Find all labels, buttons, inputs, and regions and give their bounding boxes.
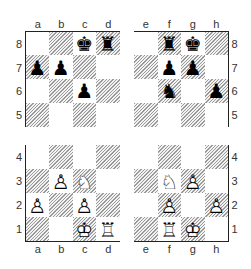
square-c7 <box>73 55 97 79</box>
board-quadrant-kingside-white: ♘ ♙ ♙ ♙ ♖ ♔ <box>134 145 229 242</box>
black-pawn-icon: ♟ <box>52 57 70 78</box>
square-h6: ♟ <box>205 79 229 103</box>
rank-label-8: 8 <box>13 38 25 50</box>
square-g4 <box>181 145 205 169</box>
square-d5 <box>96 103 120 127</box>
square-f3: ♘ <box>158 169 182 193</box>
file-labels-bottom-right: e f g h <box>134 243 228 256</box>
black-rook-icon: ♜ <box>99 33 117 54</box>
rank-label-5: 5 <box>13 109 25 121</box>
white-king-icon: ♔ <box>75 219 93 240</box>
square-c2: ♙ <box>73 193 97 217</box>
file-label-b: b <box>50 243 74 256</box>
square-g7: ♟ <box>181 55 205 79</box>
square-f5 <box>158 103 182 127</box>
black-knight-icon: ♞ <box>160 80 178 101</box>
square-b7: ♟ <box>49 55 73 79</box>
black-pawn-icon: ♟ <box>207 80 225 101</box>
square-f8: ♜ <box>158 32 182 56</box>
file-label-c: c <box>73 18 97 31</box>
rank-label-2: 2 <box>13 199 25 211</box>
file-label-g: g <box>181 243 205 256</box>
white-pawn-icon: ♙ <box>28 195 46 216</box>
square-a1 <box>26 217 50 241</box>
white-knight-icon: ♘ <box>75 171 93 192</box>
square-a7: ♟ <box>26 55 50 79</box>
file-label-f: f <box>158 18 182 31</box>
board-quadrant-queenside-white: ♙ ♘ ♙ ♙ ♔ ♖ <box>25 145 120 242</box>
rank-labels-upper-left: 8 7 6 5 <box>13 32 25 127</box>
white-knight-icon: ♘ <box>160 171 178 192</box>
square-h3 <box>205 169 229 193</box>
square-g5 <box>181 103 205 127</box>
file-label-h: h <box>205 243 229 256</box>
square-g2 <box>181 193 205 217</box>
square-b6 <box>49 79 73 103</box>
square-c4 <box>73 145 97 169</box>
file-labels-top-left: a b c d <box>26 18 120 31</box>
file-labels-top-right: e f g h <box>134 18 228 31</box>
file-label-a: a <box>26 243 50 256</box>
square-h7 <box>205 55 229 79</box>
square-g1: ♔ <box>181 217 205 241</box>
square-e5 <box>134 103 158 127</box>
rank-label-6: 6 <box>13 85 25 97</box>
square-d1: ♖ <box>96 217 120 241</box>
square-f1: ♖ <box>158 217 182 241</box>
white-king-icon: ♔ <box>184 219 202 240</box>
square-a5 <box>26 103 50 127</box>
square-d8: ♜ <box>96 32 120 56</box>
square-c3: ♘ <box>73 169 97 193</box>
square-e1 <box>134 217 158 241</box>
black-king-icon: ♚ <box>75 33 93 54</box>
black-pawn-icon: ♟ <box>75 80 93 101</box>
square-h1 <box>205 217 229 241</box>
black-pawn-icon: ♟ <box>28 57 46 78</box>
file-labels-bottom-left: a b c d <box>26 243 120 256</box>
rank-label-5: 5 <box>229 109 241 121</box>
white-rook-icon: ♖ <box>99 219 117 240</box>
file-label-a: a <box>26 18 50 31</box>
square-b4 <box>49 145 73 169</box>
file-label-h: h <box>205 18 229 31</box>
rank-label-4: 4 <box>13 151 25 163</box>
square-d4 <box>96 145 120 169</box>
square-c1: ♔ <box>73 217 97 241</box>
black-rook-icon: ♜ <box>160 33 178 54</box>
square-e4 <box>134 145 158 169</box>
square-d2 <box>96 193 120 217</box>
file-label-f: f <box>158 243 182 256</box>
white-pawn-icon: ♙ <box>160 195 178 216</box>
file-label-c: c <box>73 243 97 256</box>
white-pawn-icon: ♙ <box>207 195 225 216</box>
square-f6: ♞ <box>158 79 182 103</box>
rank-label-7: 7 <box>229 62 241 74</box>
square-d6 <box>96 79 120 103</box>
white-pawn-icon: ♙ <box>75 195 93 216</box>
chess-diagram: a b c d e f g h a b c d e f g h 8 7 6 5 … <box>0 0 251 269</box>
square-h5 <box>205 103 229 127</box>
square-a2: ♙ <box>26 193 50 217</box>
file-label-d: d <box>97 243 121 256</box>
square-g6 <box>181 79 205 103</box>
square-e8 <box>134 32 158 56</box>
square-h2: ♙ <box>205 193 229 217</box>
square-e6 <box>134 79 158 103</box>
board-quadrant-kingside-black: ♜ ♚ ♟ ♟ ♞ ♟ <box>134 31 229 127</box>
rank-label-1: 1 <box>13 223 25 235</box>
black-pawn-icon: ♟ <box>160 57 178 78</box>
square-h4 <box>205 145 229 169</box>
square-g8: ♚ <box>181 32 205 56</box>
rank-label-4: 4 <box>229 151 241 163</box>
file-label-g: g <box>181 18 205 31</box>
rank-label-3: 3 <box>13 175 25 187</box>
square-h8 <box>205 32 229 56</box>
rank-labels-lower-right: 4 3 2 1 <box>229 145 241 241</box>
file-label-d: d <box>97 18 121 31</box>
square-c5 <box>73 103 97 127</box>
square-d7 <box>96 55 120 79</box>
white-pawn-icon: ♙ <box>52 171 70 192</box>
square-e3 <box>134 169 158 193</box>
black-pawn-icon: ♟ <box>184 57 202 78</box>
square-b1 <box>49 217 73 241</box>
